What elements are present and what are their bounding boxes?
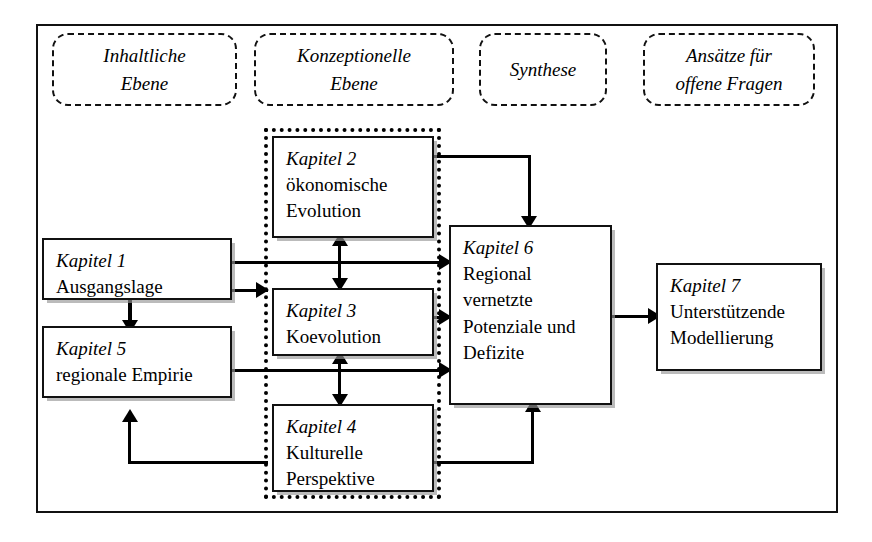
node-kapitel4[interactable]: Kapitel 4 Kulturelle Perspektive — [272, 404, 434, 492]
node-kapitel6-title-line2: vernetzte — [463, 287, 598, 313]
node-kapitel7-title-line2: Modellierung — [670, 325, 808, 351]
column-header-line2: Ebene — [121, 70, 168, 98]
node-kapitel2-title-line2: Evolution — [286, 198, 420, 224]
column-header-inhaltliche-ebene: Inhaltliche Ebene — [52, 33, 237, 106]
node-kapitel2-chapter: Kapitel 2 — [286, 146, 420, 172]
node-kapitel1-title-line1: Ausgangslage — [56, 274, 218, 300]
node-kapitel1[interactable]: Kapitel 1 Ausgangslage — [42, 238, 232, 300]
column-header-line2: offene Fragen — [675, 70, 782, 98]
column-header-line1: Inhaltliche — [103, 42, 185, 70]
node-kapitel4-title-line2: Perspektive — [286, 466, 420, 492]
node-kapitel6-title-line4: Defizite — [463, 340, 598, 366]
column-header-synthese: Synthese — [479, 33, 607, 106]
node-kapitel3-chapter: Kapitel 3 — [286, 298, 420, 324]
node-kapitel7-title-line1: Unterstützende — [670, 299, 808, 325]
node-kapitel6[interactable]: Kapitel 6 Regional vernetzte Potenziale … — [449, 225, 612, 405]
node-kapitel4-title-line1: Kulturelle — [286, 440, 420, 466]
node-kapitel3[interactable]: Kapitel 3 Koevolution — [272, 288, 434, 356]
column-header-konzeptionelle-ebene: Konzeptionelle Ebene — [254, 33, 454, 106]
node-kapitel5[interactable]: Kapitel 5 regionale Empirie — [42, 326, 232, 398]
column-header-line1: Synthese — [510, 56, 576, 84]
node-kapitel3-title-line1: Koevolution — [286, 324, 420, 350]
node-kapitel7-chapter: Kapitel 7 — [670, 273, 808, 299]
node-kapitel1-chapter: Kapitel 1 — [56, 248, 218, 274]
column-header-ansaetze-fuer-offene-fragen: Ansätze für offene Fragen — [643, 33, 815, 106]
node-kapitel5-chapter: Kapitel 5 — [56, 336, 218, 362]
node-kapitel2-title-line1: ökonomische — [286, 172, 420, 198]
diagram-canvas: Inhaltliche Ebene Konzeptionelle Ebene S… — [0, 0, 872, 542]
node-kapitel4-chapter: Kapitel 4 — [286, 414, 420, 440]
column-header-line2: Ebene — [330, 70, 377, 98]
node-kapitel2[interactable]: Kapitel 2 ökonomische Evolution — [272, 136, 434, 238]
node-kapitel6-title-line3: Potenziale und — [463, 314, 598, 340]
node-kapitel6-title-line1: Regional — [463, 261, 598, 287]
column-header-line1: Ansätze für — [686, 42, 772, 70]
column-header-line1: Konzeptionelle — [297, 42, 411, 70]
node-kapitel5-title-line1: regionale Empirie — [56, 362, 218, 388]
node-kapitel6-chapter: Kapitel 6 — [463, 235, 598, 261]
node-kapitel7[interactable]: Kapitel 7 Unterstützende Modellierung — [656, 263, 822, 371]
